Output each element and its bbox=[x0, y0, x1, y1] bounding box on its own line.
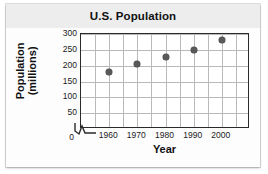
y-tick-label: 150 bbox=[51, 76, 77, 86]
gridline-vertical bbox=[151, 34, 152, 127]
gridline-horizontal bbox=[81, 113, 248, 114]
gridline-vertical bbox=[95, 34, 96, 127]
x-tick-label: 1990 bbox=[183, 130, 202, 140]
x-tick-label: 1960 bbox=[99, 130, 118, 140]
gridline-horizontal bbox=[81, 97, 248, 98]
y-axis-title-line2: (millions) bbox=[27, 17, 39, 125]
data-point bbox=[106, 69, 112, 75]
gridline-horizontal bbox=[81, 34, 248, 35]
gridline-vertical bbox=[109, 34, 110, 127]
gridline-vertical bbox=[222, 34, 223, 127]
gridline-vertical bbox=[236, 34, 237, 127]
x-axis-title: Year bbox=[80, 143, 249, 155]
gridline-horizontal bbox=[81, 66, 248, 67]
x-axis-tick-labels: 19601970198019902000 bbox=[80, 130, 249, 144]
x-tick-label: 1980 bbox=[155, 130, 174, 140]
axis-break-icon bbox=[74, 122, 96, 136]
gridline-vertical bbox=[137, 34, 138, 127]
gridline-vertical bbox=[166, 34, 167, 127]
gridline-vertical bbox=[123, 34, 124, 127]
y-tick-label: 100 bbox=[51, 91, 77, 101]
y-axis-tick-labels: 50100150200250300 bbox=[48, 33, 77, 128]
y-tick-label: 50 bbox=[51, 107, 77, 117]
data-point bbox=[191, 47, 197, 53]
y-tick-label: 300 bbox=[51, 28, 77, 38]
data-point bbox=[163, 54, 169, 60]
gridline-horizontal bbox=[81, 50, 248, 51]
y-tick-label: 250 bbox=[51, 44, 77, 54]
y-tick-label: 200 bbox=[51, 60, 77, 70]
gridline-horizontal bbox=[81, 82, 248, 83]
y-axis-title-line1: Population bbox=[14, 42, 26, 99]
chart-title: U.S. Population bbox=[90, 10, 176, 22]
plot-area bbox=[80, 33, 249, 128]
chart-card: U.S. Population 50100150200250300 0 1960… bbox=[6, 4, 260, 167]
data-point bbox=[219, 37, 225, 43]
gridline-vertical bbox=[208, 34, 209, 127]
y-axis-origin-label: 0 bbox=[48, 132, 74, 142]
x-tick-label: 2000 bbox=[211, 130, 230, 140]
gridline-vertical bbox=[180, 34, 181, 127]
chart-title-band: U.S. Population bbox=[6, 4, 260, 28]
x-tick-label: 1970 bbox=[127, 130, 146, 140]
y-axis-title: Population (millions) bbox=[15, 17, 39, 125]
